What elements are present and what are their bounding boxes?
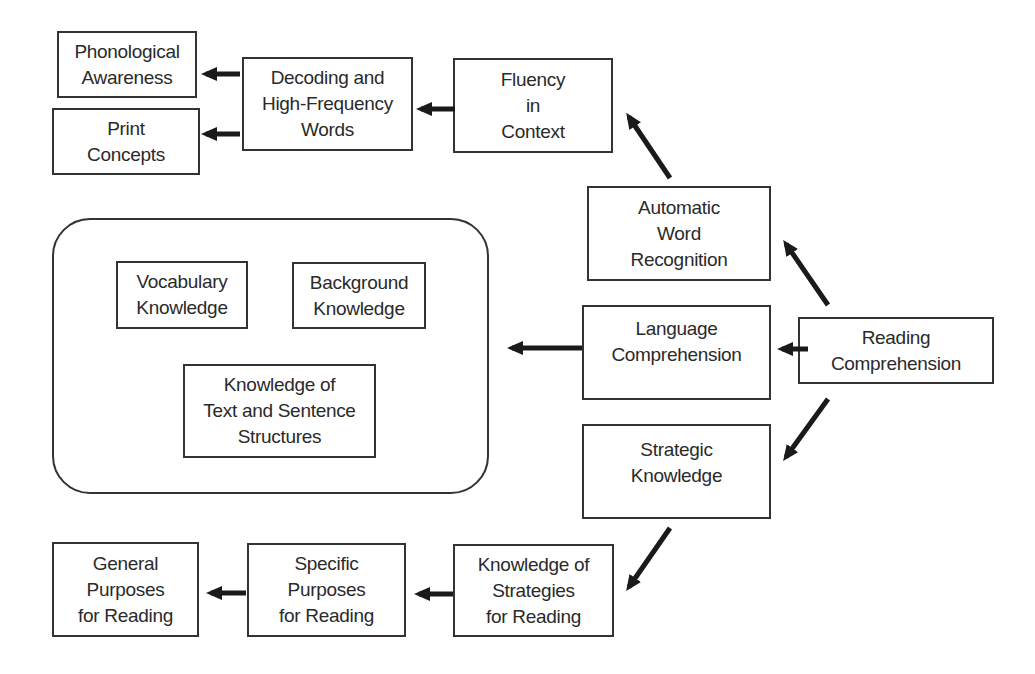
node-label-line: Purposes: [87, 577, 165, 603]
node-label-line: Fluency: [501, 67, 565, 93]
arrow-awr-to-fluency: [629, 117, 670, 178]
node-reading-comprehension: Reading Comprehension: [798, 317, 994, 384]
node-label-line: General: [93, 551, 159, 577]
node-label-line: Automatic: [638, 195, 720, 221]
node-phonological-awareness: Phonological Awareness: [57, 31, 197, 98]
node-label-line: Reading: [862, 325, 931, 351]
node-label-line: Knowledge: [631, 463, 722, 489]
node-label-line: Print: [107, 116, 145, 142]
node-label-line: Knowledge of: [478, 552, 590, 578]
node-language-comprehension: Language Comprehension: [582, 305, 771, 400]
node-label-line: Specific: [294, 551, 358, 577]
node-specific-purposes: Specific Purposes for Reading: [247, 543, 406, 637]
node-label-line: High-Frequency: [262, 91, 393, 117]
node-label-line: Awareness: [82, 65, 173, 91]
node-label-line: in: [526, 93, 540, 119]
node-vocabulary-knowledge: Vocabulary Knowledge: [116, 261, 248, 329]
node-label-line: Text and Sentence: [203, 398, 355, 424]
node-label-line: Word: [657, 221, 701, 247]
node-label-line: Vocabulary: [136, 269, 227, 295]
node-label-line: Purposes: [288, 577, 366, 603]
node-label-line: for Reading: [279, 603, 374, 629]
node-label-line: Phonological: [74, 39, 179, 65]
node-label-line: Comprehension: [831, 351, 961, 377]
node-decoding-high-frequency-words: Decoding and High-Frequency Words: [242, 57, 413, 151]
node-label-line: Concepts: [87, 142, 165, 168]
arrow-strategic-to-strategies: [629, 528, 670, 587]
node-general-purposes: General Purposes for Reading: [52, 542, 199, 637]
node-label-line: Strategic: [640, 437, 712, 463]
node-print-concepts: Print Concepts: [52, 108, 200, 175]
node-label-line: Context: [501, 119, 564, 145]
node-label-line: Knowledge: [313, 296, 404, 322]
node-background-knowledge: Background Knowledge: [292, 262, 426, 329]
node-label-line: Knowledge of: [224, 372, 336, 398]
arrow-rc-to-strategic: [786, 399, 828, 457]
node-label-line: Knowledge: [136, 295, 227, 321]
node-label-line: Decoding and: [271, 65, 385, 91]
node-text-and-sentence-structures: Knowledge of Text and Sentence Structure…: [183, 364, 376, 458]
arrow-rc-to-awr: [786, 244, 828, 305]
node-label-line: Words: [301, 117, 354, 143]
node-label-line: Language: [635, 316, 717, 342]
node-label-line: for Reading: [486, 604, 581, 630]
node-fluency-in-context: Fluency in Context: [453, 58, 613, 153]
node-strategic-knowledge: Strategic Knowledge: [582, 424, 771, 519]
node-label-line: Comprehension: [611, 342, 741, 368]
node-knowledge-of-strategies: Knowledge of Strategies for Reading: [453, 544, 614, 637]
node-label-line: Strategies: [492, 578, 575, 604]
node-label-line: for Reading: [78, 603, 173, 629]
node-automatic-word-recognition: Automatic Word Recognition: [587, 186, 771, 281]
node-label-line: Structures: [238, 424, 322, 450]
node-label-line: Background: [310, 270, 408, 296]
node-label-line: Recognition: [630, 247, 727, 273]
